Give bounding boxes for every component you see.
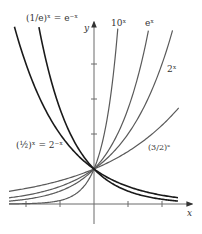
y-axis-label: y — [83, 23, 90, 33]
label-half: (½)ˣ = 2⁻ˣ — [16, 140, 63, 150]
chart-canvas: x y (1/e)ˣ = e⁻ˣ 10ˣ eˣ 2ˣ (½)ˣ = 2⁻ˣ (3… — [0, 0, 202, 234]
label-two: 2ˣ — [167, 64, 177, 74]
label-three-halves: (3/2)ˣ — [148, 143, 171, 152]
label-inv-e: (1/e)ˣ = e⁻ˣ — [26, 13, 78, 23]
curve-e-x — [9, 31, 148, 201]
x-axis-label: x — [187, 208, 192, 218]
exponential-functions-figure: x y (1/e)ˣ = e⁻ˣ 10ˣ eˣ 2ˣ (½)ˣ = 2⁻ˣ (3… — [0, 0, 202, 234]
label-e: eˣ — [145, 18, 154, 28]
label-ten: 10ˣ — [111, 18, 126, 28]
